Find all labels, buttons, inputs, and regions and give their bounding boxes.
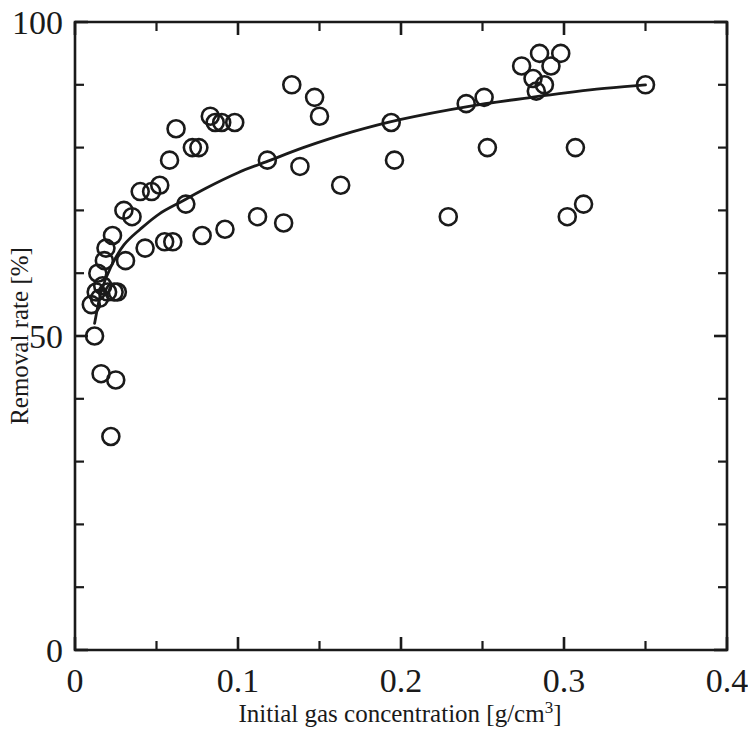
data-point xyxy=(552,45,569,62)
x-tick-label: 0.3 xyxy=(543,662,586,699)
data-points xyxy=(83,45,654,445)
x-tick-label: 0.4 xyxy=(706,662,748,699)
data-point xyxy=(479,139,496,156)
data-point xyxy=(117,252,134,269)
data-point xyxy=(559,208,576,225)
data-point xyxy=(194,227,211,244)
data-point xyxy=(306,89,323,106)
y-axis-title: Removal rate [%] xyxy=(6,247,33,425)
data-point xyxy=(458,95,475,112)
data-point xyxy=(283,76,300,93)
x-tick-label: 0.1 xyxy=(217,662,260,699)
x-tick-label: 0 xyxy=(67,662,84,699)
x-tick-label: 0.2 xyxy=(380,662,423,699)
axes-layer xyxy=(75,22,727,650)
data-point xyxy=(440,208,457,225)
y-tick-label: 0 xyxy=(46,632,63,669)
data-point xyxy=(102,428,119,445)
y-tick-label: 50 xyxy=(29,318,63,355)
data-point xyxy=(161,152,178,169)
data-point xyxy=(226,114,243,131)
x-axis-title: Initial gas concentration [g/cm3] xyxy=(239,698,562,728)
data-point xyxy=(386,152,403,169)
plot-frame xyxy=(75,22,727,650)
data-point xyxy=(567,139,584,156)
data-point xyxy=(311,108,328,125)
data-point xyxy=(137,240,154,257)
data-point xyxy=(107,371,124,388)
data-point xyxy=(275,214,292,231)
data-point xyxy=(216,221,233,238)
x-axis-tick-labels: 00.10.20.30.4 xyxy=(67,662,748,699)
data-point xyxy=(249,208,266,225)
tick-marks xyxy=(75,22,727,650)
y-tick-label: 100 xyxy=(12,4,63,41)
data-point xyxy=(332,177,349,194)
data-point xyxy=(168,120,185,137)
data-point xyxy=(575,196,592,213)
scatter-plot: 00.10.20.30.4 050100 Initial gas concent… xyxy=(0,0,748,734)
data-point xyxy=(291,158,308,175)
figure-container: 00.10.20.30.4 050100 Initial gas concent… xyxy=(0,0,748,734)
data-point xyxy=(86,328,103,345)
